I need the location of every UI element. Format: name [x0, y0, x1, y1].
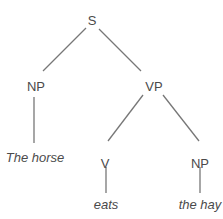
node-vp: VP	[145, 79, 162, 94]
node-np1: NP	[27, 79, 45, 94]
leaf-word-w1: The horse	[6, 150, 65, 165]
leaf-word-w2: eats	[94, 197, 119, 212]
edge-s-vp	[99, 29, 141, 71]
node-s: S	[88, 13, 97, 28]
edge-s-np1	[43, 28, 86, 71]
parse-tree-diagram: SNPVPThe horseVNPeatsthe hay	[0, 0, 223, 219]
tree-edges	[0, 0, 223, 219]
edge-vp-v	[108, 95, 143, 141]
edge-vp-np2	[163, 95, 199, 141]
node-v: V	[101, 156, 110, 171]
node-np2: NP	[191, 156, 209, 171]
leaf-word-w3: the hay	[179, 197, 222, 212]
